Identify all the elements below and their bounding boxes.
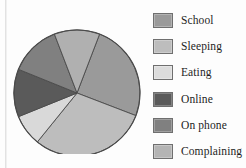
legend-swatch-eating [153,65,173,80]
legend-label-online: Online [181,93,213,106]
legend-item-on-phone[interactable]: On phone [153,115,246,136]
legend-item-complaining[interactable]: Complaining [153,141,246,162]
legend-swatch-complaining [153,144,173,159]
pie-chart-area [10,20,144,154]
legend-item-online[interactable]: Online [153,89,246,110]
legend-item-sleeping[interactable]: Sleeping [153,36,246,57]
legend-label-eating: Eating [181,66,212,79]
legend-label-sleeping: Sleeping [181,40,222,53]
legend-label-on-phone: On phone [181,119,227,132]
legend-swatch-on-phone [153,118,173,133]
legend-item-school[interactable]: School [153,10,246,31]
legend-swatch-school [153,13,173,28]
legend-swatch-online [153,92,173,107]
legend-label-school: School [181,14,214,27]
pie-chart-figure: School Sleeping Eating Online On phone C… [0,0,246,168]
scan-artifact-line-secondary [6,0,7,168]
legend-item-eating[interactable]: Eating [153,62,246,83]
legend-label-complaining: Complaining [181,145,242,158]
chart-legend: School Sleeping Eating Online On phone C… [153,10,246,162]
pie-chart-svg [10,20,144,154]
legend-swatch-sleeping [153,39,173,54]
